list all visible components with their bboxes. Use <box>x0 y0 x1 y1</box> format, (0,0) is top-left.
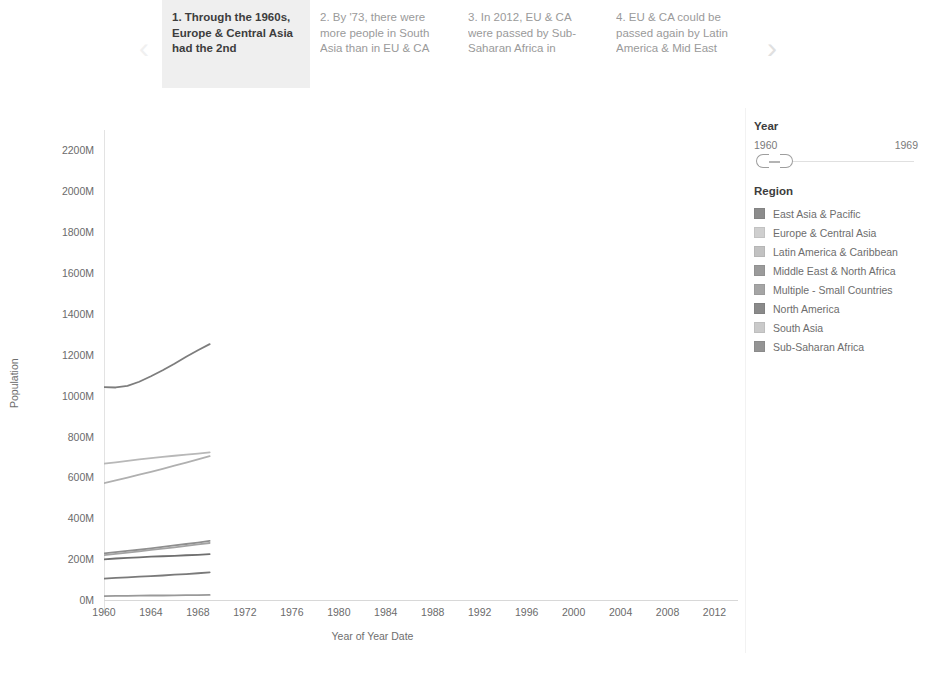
x-tick-label: 2000 <box>562 606 585 618</box>
legend-item-europe-central-asia[interactable]: Europe & Central Asia <box>754 223 936 242</box>
year-range-labels: 1960 1969 <box>754 139 918 151</box>
y-tick-label: 2000M <box>16 185 94 197</box>
y-tick-label: 2200M <box>16 144 94 156</box>
legend-item-middle-east-north-africa[interactable]: Middle East & North Africa <box>754 261 936 280</box>
x-tick-label: 1968 <box>186 606 209 618</box>
y-tick-label: 800M <box>16 431 94 443</box>
story-card-text: 1. Through the 1960s, Europe & Central A… <box>172 10 302 57</box>
year-filter-title: Year <box>754 120 936 132</box>
year-filter: Year 1960 1969 <box>754 120 936 169</box>
x-tick-label: 1964 <box>139 606 162 618</box>
legend-item-label: South Asia <box>773 322 823 334</box>
x-tick-label: 1980 <box>327 606 350 618</box>
y-tick-label: 1000M <box>16 390 94 402</box>
legend-item-multiple-small-countries[interactable]: Multiple - Small Countries <box>754 280 936 299</box>
chevron-right-icon[interactable]: › <box>754 0 790 96</box>
legend-color-swatch <box>754 208 765 219</box>
chevron-left-icon[interactable]: ‹ <box>126 0 162 96</box>
legend-item-east-asia-pacific[interactable]: East Asia & Pacific <box>754 204 936 223</box>
year-range-slider[interactable] <box>754 153 918 169</box>
legend-color-swatch <box>754 265 765 276</box>
y-tick-label: 400M <box>16 512 94 524</box>
y-tick-label: 1800M <box>16 226 94 238</box>
legend-item-label: Middle East & North Africa <box>773 265 896 277</box>
legend-item-label: East Asia & Pacific <box>773 208 861 220</box>
story-card-text: 4. EU & CA could be passed again by Lati… <box>616 10 746 57</box>
series-line-latin-america-caribbean[interactable] <box>104 543 210 555</box>
story-card-1[interactable]: 1. Through the 1960s, Europe & Central A… <box>162 0 310 88</box>
slider-handle-min[interactable] <box>756 154 769 168</box>
x-axis-tick-labels: 1960196419681972197619801984198819921996… <box>104 606 744 624</box>
series-line-south-asia[interactable] <box>104 456 210 483</box>
y-tick-label: 200M <box>16 553 94 565</box>
legend-item-south-asia[interactable]: South Asia <box>754 318 936 337</box>
filter-legend-panel: Year 1960 1969 Region East Asia & Pacifi… <box>745 108 936 653</box>
legend-item-label: Multiple - Small Countries <box>773 284 893 296</box>
legend-color-swatch <box>754 322 765 333</box>
x-tick-label: 1960 <box>92 606 115 618</box>
legend-item-label: North America <box>773 303 840 315</box>
region-legend-group: Region East Asia & PacificEurope & Centr… <box>754 185 936 356</box>
story-navigation-bar: ‹ 1. Through the 1960s, Europe & Central… <box>0 0 936 100</box>
legend-item-label: Sub-Saharan Africa <box>773 341 864 353</box>
legend-color-swatch <box>754 246 765 257</box>
legend-color-swatch <box>754 227 765 238</box>
story-card-list: 1. Through the 1960s, Europe & Central A… <box>162 0 754 96</box>
y-tick-label: 1200M <box>16 349 94 361</box>
legend-item-sub-saharan-africa[interactable]: Sub-Saharan Africa <box>754 337 936 356</box>
story-card-text: 2. By '73, there were more people in Sou… <box>320 10 450 57</box>
x-tick-label: 2012 <box>703 606 726 618</box>
legend-color-swatch <box>754 303 765 314</box>
legend-item-label: Latin America & Caribbean <box>773 246 898 258</box>
chart-container: Population 0M200M400M600M800M1000M1200M1… <box>0 108 745 653</box>
x-tick-label: 1988 <box>421 606 444 618</box>
series-line-europe-central-asia[interactable] <box>104 452 210 463</box>
x-tick-label: 1984 <box>374 606 397 618</box>
y-tick-label: 1400M <box>16 308 94 320</box>
x-tick-label: 1992 <box>468 606 491 618</box>
series-line-sub-saharan-africa[interactable] <box>104 541 210 553</box>
y-tick-label: 1600M <box>16 267 94 279</box>
x-tick-label: 1996 <box>515 606 538 618</box>
legend-item-label: Europe & Central Asia <box>773 227 876 239</box>
x-tick-label: 1972 <box>233 606 256 618</box>
x-axis-line <box>104 600 738 601</box>
year-max-label: 1969 <box>895 139 918 151</box>
x-tick-label: 2008 <box>656 606 679 618</box>
legend-color-swatch <box>754 284 765 295</box>
slider-handle-max[interactable] <box>780 154 793 168</box>
series-line-east-asia-pacific[interactable] <box>104 344 210 387</box>
legend-item-latin-america-caribbean[interactable]: Latin America & Caribbean <box>754 242 936 261</box>
region-legend-title: Region <box>754 185 936 197</box>
x-tick-label: 2004 <box>609 606 632 618</box>
story-card-4[interactable]: 4. EU & CA could be passed again by Lati… <box>606 0 754 80</box>
series-line-north-america[interactable] <box>104 554 210 559</box>
story-card-3[interactable]: 3. In 2012, EU & CA were passed by Sub-S… <box>458 0 606 80</box>
story-card-text: 3. In 2012, EU & CA were passed by Sub-S… <box>468 10 598 57</box>
series-line-multiple-small-countries[interactable] <box>104 595 210 596</box>
year-min-label: 1960 <box>754 139 777 151</box>
x-tick-label: 1976 <box>280 606 303 618</box>
x-axis-title: Year of Year Date <box>0 630 745 642</box>
y-tick-label: 0M <box>16 594 94 606</box>
series-line-middle-east-north-africa[interactable] <box>104 572 210 578</box>
y-tick-label: 600M <box>16 471 94 483</box>
legend-item-north-america[interactable]: North America <box>754 299 936 318</box>
line-plot-area[interactable] <box>104 130 738 600</box>
story-card-2[interactable]: 2. By '73, there were more people in Sou… <box>310 0 458 80</box>
legend-color-swatch <box>754 341 765 352</box>
y-axis-tick-labels: 0M200M400M600M800M1000M1200M1400M1600M18… <box>22 108 100 608</box>
region-legend-items: East Asia & PacificEurope & Central Asia… <box>754 204 936 356</box>
